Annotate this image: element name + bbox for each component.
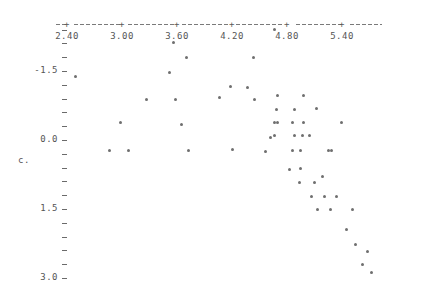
y-axis-tick-mark bbox=[62, 112, 67, 113]
data-point bbox=[315, 107, 318, 110]
y-axis-tick-mark bbox=[62, 250, 67, 251]
x-axis-dash bbox=[356, 24, 360, 25]
data-point bbox=[288, 168, 291, 171]
data-point bbox=[340, 121, 343, 124]
y-axis-tick-mark bbox=[62, 209, 67, 210]
data-point bbox=[273, 134, 276, 137]
data-point bbox=[218, 96, 221, 99]
x-axis-tick-label: 2.40 bbox=[45, 31, 89, 41]
x-axis-dash bbox=[224, 24, 228, 25]
x-axis-dash bbox=[362, 24, 366, 25]
x-axis-dash bbox=[104, 24, 108, 25]
data-point bbox=[253, 98, 256, 101]
data-point bbox=[299, 149, 302, 152]
x-axis-tick-mark: + bbox=[64, 20, 69, 28]
x-axis-dash bbox=[314, 24, 318, 25]
x-axis-dash bbox=[134, 24, 138, 25]
data-point bbox=[354, 243, 357, 246]
x-axis-dash bbox=[302, 24, 306, 25]
x-axis-dash bbox=[266, 24, 270, 25]
data-point bbox=[291, 121, 294, 124]
x-axis-tick-mark: + bbox=[339, 20, 344, 28]
data-point bbox=[308, 134, 311, 137]
data-point bbox=[174, 98, 177, 101]
x-axis-tick-mark: + bbox=[174, 20, 179, 28]
data-point bbox=[323, 195, 326, 198]
data-point bbox=[291, 149, 294, 152]
data-point bbox=[269, 136, 272, 139]
y-axis-tick-mark bbox=[62, 264, 67, 265]
data-point bbox=[302, 121, 305, 124]
x-axis-dash bbox=[194, 24, 198, 25]
data-point bbox=[119, 121, 122, 124]
data-point bbox=[276, 94, 279, 97]
data-point bbox=[345, 228, 348, 231]
data-point bbox=[127, 149, 130, 152]
data-point bbox=[301, 134, 304, 137]
x-axis-dash bbox=[272, 24, 276, 25]
y-axis-tick-mark bbox=[62, 85, 67, 86]
data-point bbox=[298, 181, 301, 184]
data-point bbox=[180, 123, 183, 126]
x-axis-tick-mark: + bbox=[284, 20, 289, 28]
x-axis-dash bbox=[332, 24, 336, 25]
data-point bbox=[276, 121, 279, 124]
x-axis-dash bbox=[206, 24, 210, 25]
x-axis-dash bbox=[320, 24, 324, 25]
x-axis-tick-label: 4.20 bbox=[210, 31, 254, 41]
x-axis-dash bbox=[248, 24, 252, 25]
x-axis-dash bbox=[74, 24, 78, 25]
data-point bbox=[330, 149, 333, 152]
data-point bbox=[302, 94, 305, 97]
data-point bbox=[321, 175, 324, 178]
y-axis-tick-mark bbox=[62, 140, 67, 141]
data-point bbox=[273, 121, 276, 124]
data-point bbox=[366, 250, 369, 253]
data-point bbox=[273, 28, 276, 31]
data-point bbox=[329, 208, 332, 211]
data-point bbox=[229, 85, 232, 88]
scatter-plot-figure: c. 3.01.50.0-1.5 2.403.003.604.204.805.4… bbox=[0, 0, 437, 289]
data-point bbox=[299, 167, 302, 170]
data-point bbox=[168, 71, 171, 74]
data-point bbox=[351, 208, 354, 211]
x-axis-dash bbox=[56, 24, 60, 25]
x-axis-dash bbox=[212, 24, 216, 25]
data-point bbox=[246, 86, 249, 89]
x-axis-tick-mark: + bbox=[119, 20, 124, 28]
data-point bbox=[264, 150, 267, 153]
y-axis-tick-mark bbox=[62, 195, 67, 196]
data-point bbox=[231, 148, 234, 151]
x-axis-dash bbox=[164, 24, 168, 25]
data-point bbox=[108, 149, 111, 152]
x-axis-dash bbox=[260, 24, 264, 25]
y-axis-label: c. bbox=[18, 155, 30, 165]
x-axis-dash bbox=[368, 24, 372, 25]
y-axis-tick-label: 0.0 bbox=[14, 134, 58, 144]
x-axis-dash bbox=[236, 24, 240, 25]
data-point bbox=[252, 56, 255, 59]
x-axis-dash bbox=[188, 24, 192, 25]
x-axis-line bbox=[56, 24, 382, 25]
data-point bbox=[293, 108, 296, 111]
data-point bbox=[145, 98, 148, 101]
y-axis-tick-mark bbox=[62, 57, 67, 58]
x-axis-dash bbox=[128, 24, 132, 25]
x-axis-dash bbox=[296, 24, 300, 25]
x-axis-tick-label: 3.00 bbox=[100, 31, 144, 41]
data-point bbox=[335, 195, 338, 198]
data-point bbox=[310, 195, 313, 198]
x-axis-dash bbox=[86, 24, 90, 25]
data-point bbox=[187, 149, 190, 152]
x-axis-dash bbox=[218, 24, 222, 25]
x-axis-dash bbox=[254, 24, 258, 25]
x-axis-dash bbox=[278, 24, 282, 25]
y-axis-tick-mark bbox=[62, 71, 67, 72]
y-axis-tick-mark bbox=[62, 168, 67, 169]
x-axis-dash bbox=[158, 24, 162, 25]
x-axis-dash bbox=[308, 24, 312, 25]
data-point bbox=[316, 208, 319, 211]
x-axis-dash bbox=[92, 24, 96, 25]
x-axis-tick-label: 4.80 bbox=[265, 31, 309, 41]
x-axis-dash bbox=[80, 24, 84, 25]
